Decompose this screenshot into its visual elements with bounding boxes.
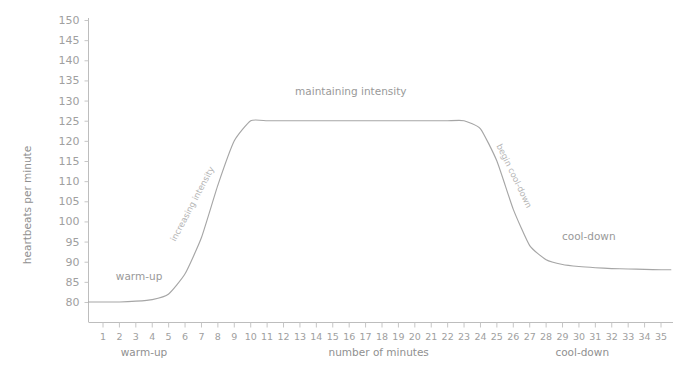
- x-tick-label: 8: [215, 331, 221, 342]
- y-tick-label: 120: [59, 135, 80, 148]
- x-tick-label: 26: [507, 331, 519, 342]
- x-tick-label: 19: [392, 331, 404, 342]
- x-tick-label: 27: [524, 331, 536, 342]
- y-tick-label: 115: [59, 155, 80, 168]
- x-tick-label: 10: [245, 331, 257, 342]
- chart-canvas: 8085909510010511011512012513013514014515…: [0, 0, 687, 372]
- x-tick-label: 17: [360, 331, 372, 342]
- x-tick-label: 11: [261, 331, 273, 342]
- x-tick-label: 16: [343, 331, 355, 342]
- x-tick-label: 24: [474, 331, 486, 342]
- x-tick-label: 33: [622, 331, 634, 342]
- x-tick-label: 3: [133, 331, 139, 342]
- x-tick-label: 14: [310, 331, 322, 342]
- x-tick-label: 25: [491, 331, 503, 342]
- y-tick-label: 105: [59, 195, 80, 208]
- x-tick-label: 7: [198, 331, 204, 342]
- x-axis-ticks: [103, 323, 661, 328]
- x-tick-label: 18: [376, 331, 388, 342]
- y-tick-label: 80: [66, 296, 80, 309]
- x-tick-label: 6: [182, 331, 188, 342]
- x-section-label: number of minutes: [329, 346, 429, 358]
- x-tick-label: 32: [606, 331, 618, 342]
- y-axis-ticks: [85, 21, 89, 303]
- heart-rate-chart: 8085909510010511011512012513013514014515…: [0, 0, 687, 372]
- x-tick-label: 20: [409, 331, 421, 342]
- x-tick-label: 29: [556, 331, 568, 342]
- y-tick-label: 100: [59, 215, 80, 228]
- x-tick-label: 13: [294, 331, 306, 342]
- y-tick-label: 135: [59, 74, 80, 87]
- curve-annotations: warm-upincreasing intensitymaintaining i…: [116, 85, 616, 282]
- plot-area: [89, 120, 671, 302]
- heart-rate-curve: [89, 120, 671, 302]
- x-tick-label: 34: [639, 331, 651, 342]
- y-axis-title: heartbeats per minute: [21, 146, 33, 264]
- curve-annotation: cool-down: [562, 230, 616, 242]
- y-tick-label: 125: [59, 115, 80, 128]
- x-section-label: warm-up: [121, 346, 168, 358]
- y-tick-label: 130: [59, 95, 80, 108]
- x-axis: 1234567891011121314151617181920212223242…: [89, 323, 674, 358]
- x-tick-label: 28: [540, 331, 552, 342]
- x-tick-label: 30: [573, 331, 585, 342]
- y-axis: 8085909510010511011512012513013514014515…: [21, 14, 89, 322]
- x-tick-label: 4: [149, 331, 155, 342]
- x-section-label: cool-down: [555, 346, 609, 358]
- y-tick-label: 85: [66, 276, 80, 289]
- x-axis-tick-labels: 1234567891011121314151617181920212223242…: [100, 331, 667, 342]
- y-tick-label: 150: [59, 14, 80, 27]
- x-tick-label: 12: [277, 331, 289, 342]
- x-tick-label: 23: [458, 331, 470, 342]
- y-axis-tick-labels: 8085909510010511011512012513013514014515…: [59, 14, 80, 309]
- x-axis-section-labels: warm-upnumber of minutescool-down: [121, 346, 609, 358]
- y-tick-label: 145: [59, 34, 80, 47]
- x-tick-label: 9: [231, 331, 237, 342]
- x-tick-label: 15: [327, 331, 339, 342]
- y-tick-label: 110: [59, 175, 80, 188]
- x-tick-label: 21: [425, 331, 437, 342]
- x-tick-label: 22: [442, 331, 454, 342]
- curve-annotation: warm-up: [116, 270, 163, 282]
- x-tick-label: 5: [166, 331, 172, 342]
- x-tick-label: 31: [589, 331, 601, 342]
- y-tick-label: 95: [66, 236, 80, 249]
- curve-annotation: increasing intensity: [168, 165, 216, 243]
- x-tick-label: 2: [116, 331, 122, 342]
- x-tick-label: 1: [100, 331, 106, 342]
- curve-annotation: maintaining intensity: [295, 85, 406, 97]
- x-tick-label: 35: [655, 331, 667, 342]
- y-tick-label: 140: [59, 54, 80, 67]
- curve-annotation: begin cool-down: [495, 142, 535, 209]
- y-tick-label: 90: [66, 256, 80, 269]
